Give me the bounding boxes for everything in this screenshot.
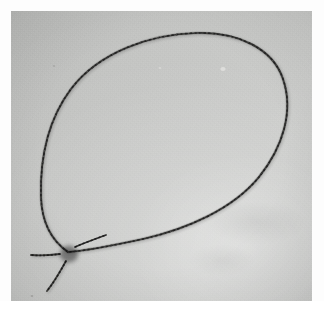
light-speck-upper-right xyxy=(220,67,225,71)
cord-loop xyxy=(41,33,287,252)
dark-fleck-upper-left xyxy=(53,65,55,67)
cord-loop-halo xyxy=(41,33,287,252)
bead-core-shadow xyxy=(65,251,74,258)
dark-fleck-lower-left xyxy=(31,295,34,297)
cord-illustration xyxy=(11,11,312,301)
print-bottom-margin xyxy=(0,301,324,310)
photograph-frame: Black and white photograph of a thin cor… xyxy=(0,0,324,310)
image-alt-text: Black and white photograph of a thin cor… xyxy=(0,0,1,1)
cord-loop-braid-texture xyxy=(41,33,287,252)
cord-loop-highlight xyxy=(41,33,287,252)
loop-shadow xyxy=(41,33,287,252)
bead xyxy=(59,244,76,260)
light-speck-mid xyxy=(159,67,162,69)
photograph-plate xyxy=(11,11,312,301)
print-blemishes xyxy=(31,65,226,297)
